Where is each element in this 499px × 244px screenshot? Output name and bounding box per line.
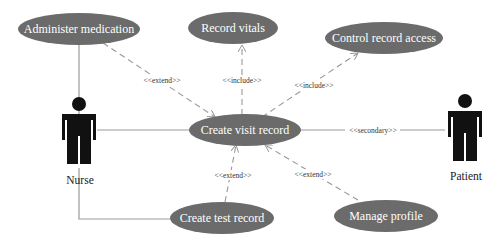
- use-case-label: Administer medication: [24, 22, 134, 36]
- use-case-create-visit-record: Create visit record: [189, 114, 301, 146]
- use-case-create-test-record: Create test record: [170, 202, 274, 234]
- use-case-label: Create visit record: [201, 123, 290, 137]
- person-icon: [448, 94, 482, 161]
- actor-label: Nurse: [66, 174, 93, 186]
- label-extend-administer: <<extend>>: [144, 76, 181, 85]
- use-case-label: Control record access: [332, 31, 436, 45]
- label-secondary: <<secondary>>: [349, 126, 396, 135]
- use-case-record-vitals: Record vitals: [188, 12, 278, 44]
- actor-label: Patient: [450, 170, 483, 182]
- person-icon: [62, 97, 96, 164]
- label-extend-test: <<extend>>: [215, 171, 252, 180]
- label-extend-profile: <<extend>>: [295, 170, 332, 179]
- use-case-label: Create test record: [180, 211, 265, 225]
- actor-patient: Patient: [448, 94, 483, 182]
- label-include-access: <<include>>: [295, 81, 334, 90]
- use-case-diagram: <<extend>> <<include>> <<include>> <<sec…: [0, 0, 499, 244]
- use-case-label: Record vitals: [201, 21, 265, 35]
- use-case-manage-profile: Manage profile: [334, 200, 438, 232]
- label-include-vitals: <<include>>: [223, 76, 262, 85]
- use-case-label: Manage profile: [349, 209, 423, 223]
- use-case-administer-medication: Administer medication: [18, 13, 140, 45]
- use-case-control-record-access: Control record access: [325, 22, 443, 54]
